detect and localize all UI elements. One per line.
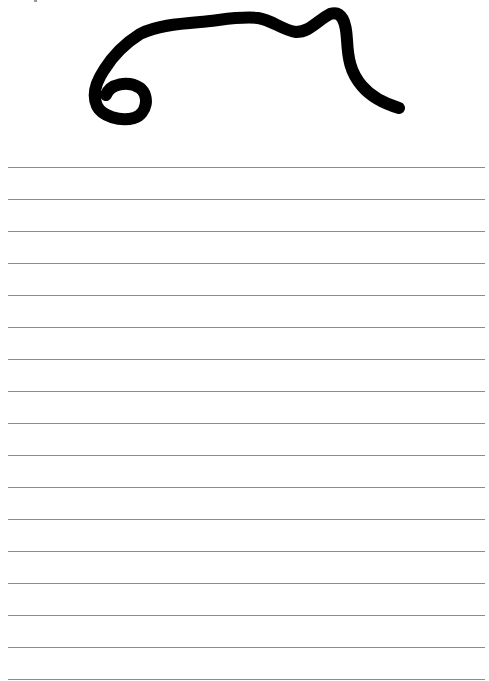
ruled-line [8, 551, 485, 552]
ruled-line [8, 359, 485, 360]
ruled-line [8, 519, 485, 520]
ruled-line [8, 615, 485, 616]
ruled-line [8, 423, 485, 424]
ruled-line [8, 327, 485, 328]
ruled-line [8, 391, 485, 392]
ink-scribble-drawing [0, 0, 489, 150]
ruled-line [8, 295, 485, 296]
ruled-line [8, 487, 485, 488]
scribble-stroke [95, 13, 399, 119]
ruled-line [8, 455, 485, 456]
lined-paper-sheet [0, 0, 489, 681]
ruled-line [8, 263, 485, 264]
ruled-line [8, 167, 485, 168]
ruled-line [8, 679, 485, 680]
ruled-line [8, 647, 485, 648]
ruled-line [8, 199, 485, 200]
ruled-line [8, 583, 485, 584]
ruled-line [8, 231, 485, 232]
